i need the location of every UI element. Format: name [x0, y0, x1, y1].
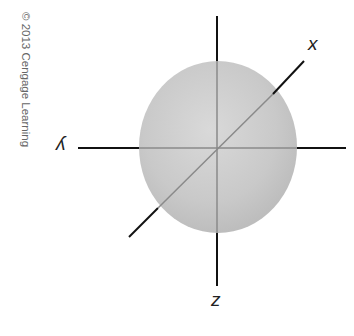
- diagram-canvas: [0, 0, 354, 336]
- sphere-axes-diagram: x y z © 2013 Cengage Learning: [0, 0, 354, 336]
- z-axis-label: z: [211, 290, 221, 309]
- x-axis-label: x: [308, 34, 318, 53]
- x-axis-upper: [273, 61, 304, 94]
- copyright-notice: © 2013 Cengage Learning: [20, 12, 32, 212]
- sphere: [139, 61, 297, 233]
- y-axis-label: y: [56, 137, 66, 156]
- x-axis-lower: [129, 208, 158, 237]
